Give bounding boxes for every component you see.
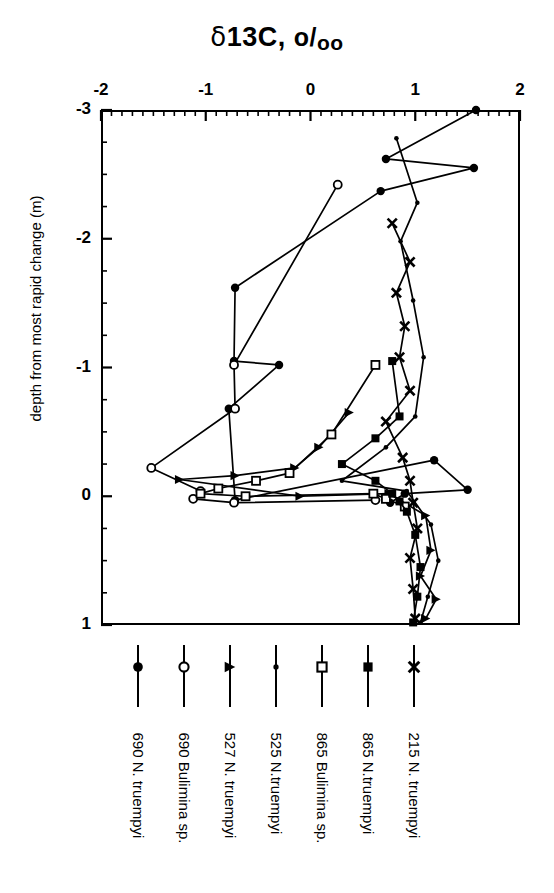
marker-small-dot [340,479,345,484]
marker-filled-circle [382,155,390,163]
marker-small-dot [413,414,418,419]
y-tick-label: -1 [57,357,91,377]
marker-small-dot [411,298,416,303]
y-tick-label: 1 [57,614,91,634]
legend-label: 865 N.truempyi [360,649,377,849]
plot-area [101,110,520,625]
marker-filled-square [371,434,379,442]
y-tick-label: -3 [57,99,91,119]
marker-cross-x [381,417,390,426]
marker-filled-circle [472,106,480,114]
legend-entry[interactable]: 690 N. truempyi [115,640,161,893]
permil-numerator: o [294,23,310,51]
series-0 [225,106,481,507]
marker-open-square [252,477,260,485]
series-2 [175,408,441,623]
chart-title-main: 13C, [227,22,294,52]
y-tick-label: 0 [57,485,91,505]
marker-filled-circle [463,486,471,494]
marker-open-circle [334,181,342,189]
legend-entry[interactable]: 690 Bulimina sp. [161,640,207,893]
legend-entry[interactable]: 215 N. truempyi [391,640,437,893]
marker-filled-square [388,490,396,498]
marker-small-dot [384,445,389,450]
marker-small-dot [436,558,441,563]
chart-title: δ13C, o/oo [0,22,554,55]
marker-open-square [327,430,335,438]
marker-filled-square [396,497,404,505]
legend-label: 215 N. truempyi [406,649,423,849]
legend-label: 865 Bulimina sp. [314,649,331,849]
y-axis-title: depth from most rapid change (m) [27,144,44,474]
marker-open-circle [231,405,239,413]
marker-cross-x [405,257,414,266]
marker-filled-circle [275,361,283,369]
marker-open-circle [230,499,238,507]
marker-filled-square [416,563,424,571]
x-tick-label: 0 [291,80,331,100]
marker-cross-x [388,219,397,228]
marker-open-square [369,490,377,498]
marker-small-dot [426,594,431,599]
permil-slash: / [310,23,317,51]
marker-small-dot [429,522,434,527]
x-tick-label: 1 [395,80,435,100]
marker-open-square [197,490,205,498]
permil-symbol: o/oo [294,23,344,51]
legend-label: 690 Bulimina sp. [176,649,193,849]
marker-filled-circle [470,164,478,172]
marker-open-square [214,485,222,493]
marker-filled-square [403,508,411,516]
marker-filled-square [371,477,379,485]
permil-denominator: oo [317,31,344,54]
legend-entry[interactable]: 525 N.truempyi [253,640,299,893]
marker-small-dot [415,200,420,205]
marker-filled-circle [231,283,239,291]
legend-label: 690 N. truempyi [130,649,147,849]
data-series-layer [101,110,520,625]
series-6 [381,219,422,623]
series-3 [340,136,441,625]
marker-small-dot [394,136,399,141]
x-tick-label: 2 [500,80,540,100]
delta-symbol: δ [210,22,226,52]
legend-entry[interactable]: 865 Bulimina sp. [299,640,345,893]
marker-small-dot [421,355,426,360]
chart-legend: 690 N. truempyi690 Bulimina sp.527 N. tr… [101,640,520,893]
marker-open-circle [230,361,238,369]
x-tick-label: -2 [81,80,121,100]
marker-cross-x [405,386,414,395]
marker-cross-x [398,453,407,462]
marker-triangle-right [432,595,441,604]
marker-open-square [371,361,379,369]
legend-entry[interactable]: 527 N. truempyi [207,640,253,893]
marker-triangle-right [230,471,239,480]
legend-label: 525 N.truempyi [268,649,285,849]
marker-filled-circle [430,456,438,464]
legend-entry[interactable]: 865 N.truempyi [345,640,391,893]
y-tick-label: -2 [57,228,91,248]
marker-filled-square [338,460,346,468]
marker-filled-circle [376,187,384,195]
marker-open-circle [147,464,155,472]
marker-open-square [286,469,294,477]
marker-open-square [242,492,250,500]
marker-triangle-right [295,492,304,501]
legend-label: 527 N. truempyi [222,649,239,849]
marker-filled-square [396,412,404,420]
x-tick-label: -1 [186,80,226,100]
marker-small-dot [405,489,410,494]
series-1 [147,181,379,507]
